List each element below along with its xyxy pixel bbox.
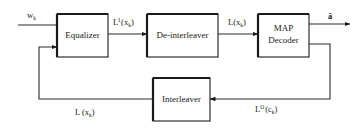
map-decoder-label-line1: MAP xyxy=(274,23,294,33)
deinterleaver-label: De-interleaver xyxy=(157,30,209,40)
input-label: wk xyxy=(27,10,36,21)
map-extrinsic-label: LO(ck) xyxy=(255,104,278,115)
interleaver-block: Interleaver xyxy=(153,78,210,121)
output-label: â xyxy=(328,11,333,21)
feedback-label: L (xk) xyxy=(75,107,95,118)
interleaver-to-eq-edge: L (xk) xyxy=(39,47,153,118)
map-decoder-label-line2: Decoder xyxy=(268,35,298,45)
equalizer-block: Equalizer xyxy=(57,14,108,57)
deint-output-label: L(xk) xyxy=(228,17,246,28)
deinterleaver-block: De-interleaver xyxy=(147,14,218,57)
output-signal: â xyxy=(309,11,350,24)
equalizer-label: Equalizer xyxy=(65,30,99,40)
input-signal: wk xyxy=(18,10,57,25)
block-diagram: wk Equalizer LI(xk) De-interleaver L(xk) xyxy=(0,0,364,129)
eq-output-label: LI(xk) xyxy=(113,17,134,28)
deint-to-map-edge: L(xk) xyxy=(218,17,258,34)
map-decoder-block: MAP Decoder xyxy=(258,14,309,57)
interleaver-label: Interleaver xyxy=(162,94,201,104)
eq-to-deint-edge: LI(xk) xyxy=(108,17,147,34)
